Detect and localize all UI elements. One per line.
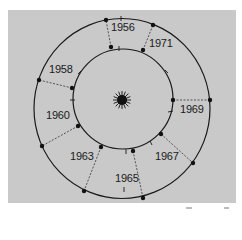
connector-1960 xyxy=(42,126,78,146)
year-label-1969: 1969 xyxy=(180,104,204,115)
year-label-1960: 1960 xyxy=(46,110,70,121)
year-label-1963: 1963 xyxy=(70,151,94,162)
year-label-1956: 1956 xyxy=(111,22,135,33)
year-label-1971: 1971 xyxy=(149,38,173,49)
year-label-1958: 1958 xyxy=(49,64,73,75)
year-label-1965: 1965 xyxy=(115,173,139,184)
caption-fragment xyxy=(186,207,192,209)
connector-1958 xyxy=(39,80,72,88)
caption-fragment xyxy=(224,207,229,209)
year-label-1967: 1967 xyxy=(155,151,179,162)
sun-icon xyxy=(113,91,131,109)
